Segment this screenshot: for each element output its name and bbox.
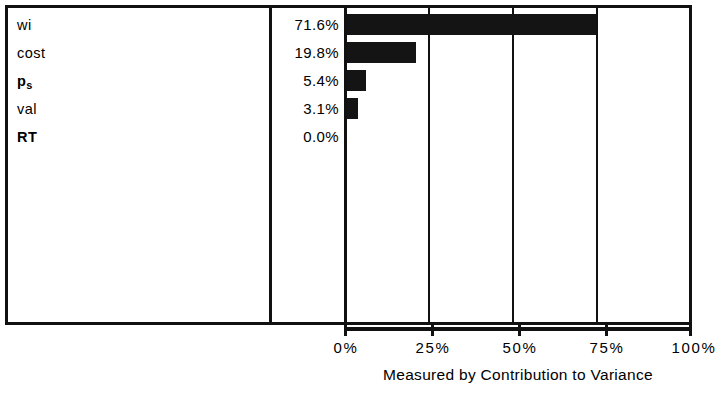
row-label-text: RT bbox=[17, 129, 37, 145]
bar-rows: wi 71.6% cost 19.8% ps 5.4% val 3.1% bbox=[8, 8, 689, 322]
row-label-text: val bbox=[17, 101, 37, 117]
table-row[interactable]: wi 71.6% bbox=[8, 11, 689, 39]
tick-0 bbox=[344, 322, 347, 336]
tick-label-25: 25% bbox=[416, 339, 451, 356]
table-row[interactable]: val 3.1% bbox=[8, 95, 689, 123]
row-value-val: 3.1% bbox=[272, 95, 339, 123]
row-value-wi: 71.6% bbox=[272, 11, 339, 39]
row-label-cost: cost bbox=[17, 39, 46, 67]
bar-ps bbox=[347, 70, 366, 91]
row-label-rt: RT bbox=[17, 123, 37, 151]
tick-label-0: 0% bbox=[334, 339, 359, 356]
tick-100 bbox=[689, 322, 692, 336]
row-value-rt: 0.0% bbox=[272, 123, 339, 151]
row-label-wi: wi bbox=[17, 11, 32, 39]
row-label-val: val bbox=[17, 95, 37, 123]
tick-50 bbox=[518, 322, 521, 336]
row-label-text: p bbox=[17, 73, 26, 89]
row-label-subscript: s bbox=[26, 79, 33, 91]
tick-75 bbox=[605, 322, 608, 336]
x-axis-title: Measured by Contribution to Variance bbox=[344, 366, 692, 384]
tick-label-75: 75% bbox=[590, 339, 625, 356]
bar-wi bbox=[347, 14, 596, 35]
row-value-ps: 5.4% bbox=[272, 67, 339, 95]
row-label-ps: ps bbox=[17, 67, 33, 95]
bar-val bbox=[347, 98, 358, 119]
row-label-text: cost bbox=[17, 45, 46, 61]
tick-label-50: 50% bbox=[503, 339, 538, 356]
table-row[interactable]: cost 19.8% bbox=[8, 39, 689, 67]
row-value-cost: 19.8% bbox=[272, 39, 339, 67]
tick-label-100: 100% bbox=[672, 339, 716, 356]
x-axis: 0% 25% 50% 75% 100% bbox=[344, 327, 692, 331]
table-row[interactable]: RT 0.0% bbox=[8, 123, 689, 151]
bar-cost bbox=[347, 42, 416, 63]
table-row[interactable]: ps 5.4% bbox=[8, 67, 689, 95]
row-label-text: wi bbox=[17, 17, 32, 33]
chart-frame: wi 71.6% cost 19.8% ps 5.4% val 3.1% bbox=[5, 5, 692, 325]
tick-25 bbox=[431, 322, 434, 336]
